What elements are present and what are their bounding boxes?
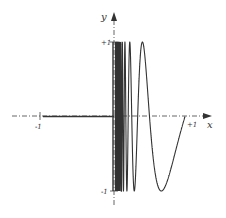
x-tick-label-neg: -1 (35, 123, 42, 131)
y-axis-arrow-icon (111, 12, 117, 21)
function-plot: y x -1 +1 +1 -1 (0, 0, 226, 218)
oscillating-branch-path (115, 42, 185, 191)
x-axis-label: x (207, 119, 213, 130)
y-tick-label-pos: +1 (101, 39, 111, 47)
x-tick-label-pos: +1 (187, 121, 197, 129)
y-tick-label-neg: -1 (101, 188, 108, 196)
y-axis-label: y (100, 11, 107, 22)
